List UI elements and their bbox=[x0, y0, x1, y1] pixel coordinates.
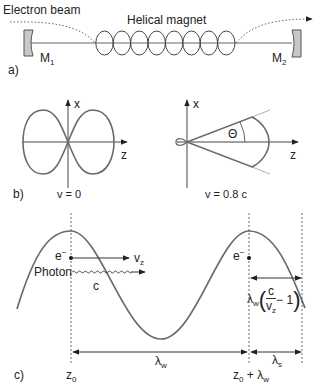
electron-beam-in bbox=[10, 22, 95, 43]
electron-dot-2 bbox=[247, 256, 251, 260]
panel-c-label: c) bbox=[14, 369, 24, 381]
z0-label: z0 bbox=[66, 369, 76, 384]
panel-b-right bbox=[176, 100, 298, 188]
panel-b-left bbox=[22, 100, 127, 188]
right-axis-z-label: z bbox=[290, 149, 296, 161]
left-axis-x-label: x bbox=[74, 98, 80, 110]
caption-v0: v = 0 bbox=[57, 189, 81, 200]
electron-label-1: e− bbox=[55, 249, 66, 262]
photon-wave bbox=[72, 271, 132, 273]
electron-label-2: e− bbox=[233, 249, 244, 262]
left-axis-z-label: z bbox=[121, 149, 127, 161]
electron-beam-label: Electron beam bbox=[3, 4, 80, 16]
mirror-m2-icon bbox=[292, 30, 301, 57]
mirror-m1-label: M1 bbox=[40, 52, 54, 67]
photon-speed-label: c bbox=[93, 280, 99, 292]
right-axis-x-label: x bbox=[193, 98, 199, 110]
panel-b-label: b) bbox=[13, 188, 24, 200]
mirror-m2-label: M2 bbox=[272, 52, 286, 67]
helical-magnet-label: Helical magnet bbox=[127, 14, 206, 26]
z0-plus-lambda-w-label: z0 + λw bbox=[233, 369, 269, 384]
lambda-s-label: λs bbox=[272, 354, 282, 369]
caption-v08c: v = 0.8 c bbox=[205, 189, 247, 200]
slippage-delay-label: λw(cvz− 1) bbox=[247, 285, 300, 315]
lambda-w-label: λw bbox=[155, 355, 167, 370]
theta-label: Θ bbox=[228, 128, 237, 140]
photon-label: Photon bbox=[34, 266, 72, 278]
panel-a-label: a) bbox=[8, 64, 19, 76]
theta-arc bbox=[240, 122, 245, 142]
vz-label: vz bbox=[134, 252, 144, 267]
